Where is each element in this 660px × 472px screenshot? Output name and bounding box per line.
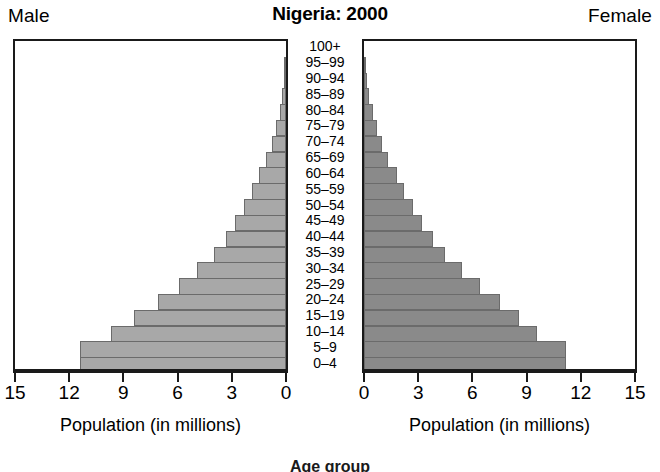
bar-female-50–54 xyxy=(364,199,413,215)
female-plot-area xyxy=(362,39,637,371)
bar-female-5–9 xyxy=(364,341,566,357)
bar-female-90–94 xyxy=(364,73,367,89)
bar-female-85–89 xyxy=(364,88,369,104)
chart-header: Male Nigeria: 2000 Female xyxy=(0,0,660,34)
age-group-label: 55–59 xyxy=(290,182,360,196)
bar-male-50–54 xyxy=(244,199,286,215)
bar-female-15–19 xyxy=(364,310,519,326)
axis-tick xyxy=(417,373,419,382)
axis-tick-label: 3 xyxy=(227,382,238,404)
bar-female-75–79 xyxy=(364,120,377,136)
bar-male-75–79 xyxy=(276,120,286,136)
axis-tick-label: 6 xyxy=(172,382,183,404)
axis-tick xyxy=(68,373,70,382)
bar-male-5–9 xyxy=(80,341,286,357)
axis-tick xyxy=(14,373,16,382)
axis-tick-label: 9 xyxy=(118,382,129,404)
bar-female-80–84 xyxy=(364,104,373,120)
age-group-label: 70–74 xyxy=(290,134,360,148)
age-group-label: 0–4 xyxy=(290,356,360,370)
bar-female-40–44 xyxy=(364,231,433,247)
chart-title: Nigeria: 2000 xyxy=(0,3,660,25)
axis-tick-label: 12 xyxy=(570,382,591,404)
bar-female-0–4 xyxy=(364,357,566,371)
axis-tick-label: 6 xyxy=(467,382,478,404)
age-group-label: 45–49 xyxy=(290,213,360,227)
age-group-label: 65–69 xyxy=(290,150,360,164)
age-group-label: 60–64 xyxy=(290,166,360,180)
age-group-label: 25–29 xyxy=(290,277,360,291)
age-group-label: 75–79 xyxy=(290,118,360,132)
age-group-label: 85–89 xyxy=(290,87,360,101)
age-group-label: 100+ xyxy=(290,39,360,53)
bar-male-85–89 xyxy=(282,88,286,104)
axis-tick-label: 15 xyxy=(624,382,645,404)
bar-female-70–74 xyxy=(364,136,382,152)
age-group-label: 95–99 xyxy=(290,55,360,69)
bar-male-70–74 xyxy=(272,136,286,152)
axis-tick-label: 12 xyxy=(59,382,80,404)
axis-tick-label: 0 xyxy=(281,382,292,404)
bar-female-35–39 xyxy=(364,247,445,263)
axis-tick xyxy=(580,373,582,382)
male-plot-area xyxy=(13,39,288,371)
age-group-label: 15–19 xyxy=(290,308,360,322)
bar-male-25–29 xyxy=(179,278,286,294)
age-group-label: 90–94 xyxy=(290,71,360,85)
bar-female-55–59 xyxy=(364,183,404,199)
axis-tick-label: 3 xyxy=(413,382,424,404)
axis-tick xyxy=(231,373,233,382)
age-group-label: 35–39 xyxy=(290,245,360,259)
bar-male-35–39 xyxy=(214,247,286,263)
bar-male-30–34 xyxy=(197,262,286,278)
bar-male-45–49 xyxy=(235,215,286,231)
bar-male-0–4 xyxy=(80,357,286,371)
bar-female-45–49 xyxy=(364,215,422,231)
bar-female-65–69 xyxy=(364,152,388,168)
male-x-axis: 15129630 xyxy=(13,371,288,391)
bar-male-15–19 xyxy=(134,310,286,326)
axis-tick xyxy=(122,373,124,382)
bar-female-95–99 xyxy=(364,57,366,73)
axis-tick xyxy=(177,373,179,382)
bar-male-90–94 xyxy=(284,73,286,89)
bar-female-25–29 xyxy=(364,278,480,294)
age-group-label: 5–9 xyxy=(290,340,360,354)
age-group-label: 50–54 xyxy=(290,198,360,212)
age-group-label: 10–14 xyxy=(290,324,360,338)
axis-tick xyxy=(471,373,473,382)
bar-male-65–69 xyxy=(266,152,286,168)
age-group-axis-labels: 100+95–9990–9485–8980–8475–7970–7465–696… xyxy=(290,39,360,371)
axis-tick xyxy=(526,373,528,382)
male-axis-title: Population (in millions) xyxy=(13,415,288,436)
bar-male-95–99 xyxy=(284,57,286,73)
female-x-axis: 03691215 xyxy=(362,371,637,391)
axis-tick xyxy=(634,373,636,382)
axis-tick xyxy=(285,373,287,382)
bar-female-30–34 xyxy=(364,262,462,278)
bar-female-20–24 xyxy=(364,294,500,310)
bar-female-10–14 xyxy=(364,326,537,342)
bar-male-55–59 xyxy=(252,183,286,199)
bar-male-60–64 xyxy=(259,167,286,183)
female-axis-title: Population (in millions) xyxy=(362,415,637,436)
male-axis-line xyxy=(13,371,288,373)
bar-male-10–14 xyxy=(111,326,286,342)
bar-male-80–84 xyxy=(280,104,286,120)
bar-male-40–44 xyxy=(226,231,286,247)
axis-tick-label: 15 xyxy=(4,382,25,404)
axis-tick xyxy=(363,373,365,382)
bar-male-20–24 xyxy=(158,294,286,310)
axis-tick-label: 9 xyxy=(521,382,532,404)
female-side-label: Female xyxy=(588,5,652,27)
age-group-label: 30–34 xyxy=(290,261,360,275)
axis-tick-label: 0 xyxy=(359,382,370,404)
age-group-label: 40–44 xyxy=(290,229,360,243)
age-group-caption: Age group xyxy=(0,458,660,472)
bar-female-60–64 xyxy=(364,167,397,183)
population-pyramid-chart: Male Nigeria: 2000 Female 100+95–9990–94… xyxy=(0,0,660,472)
age-group-label: 20–24 xyxy=(290,292,360,306)
age-group-label: 80–84 xyxy=(290,103,360,117)
female-axis-line xyxy=(362,371,637,373)
